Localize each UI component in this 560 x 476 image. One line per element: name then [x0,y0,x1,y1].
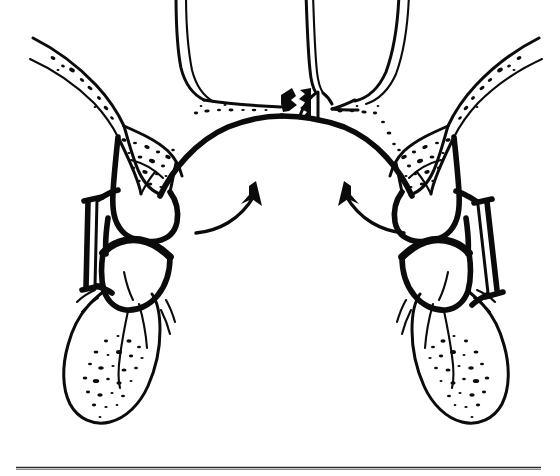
anatomical-line-drawing [0,0,560,476]
left-orthodontic-band[interactable] [106,218,108,254]
right-orthodontic-band[interactable] [466,218,468,254]
figure-container: Coronal section of maxilla during rapid … [0,0,560,476]
